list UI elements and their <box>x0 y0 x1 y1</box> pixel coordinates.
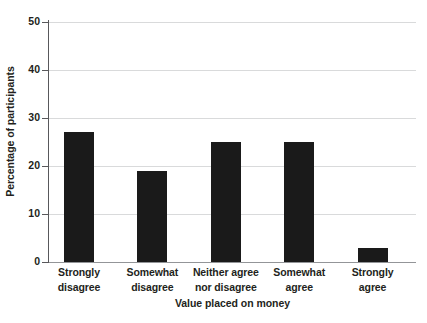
gridline <box>49 118 416 119</box>
y-axis-tick-mark <box>42 214 49 215</box>
bar <box>64 132 94 262</box>
x-axis-tick-label: Stronglyagree <box>330 265 416 295</box>
x-axis-tick-labels: StronglydisagreeSomewhatdisagreeNeither … <box>49 265 416 299</box>
y-axis-tick-mark <box>42 262 49 263</box>
plot-area <box>49 22 416 262</box>
y-axis-tick-label: 30 <box>16 112 40 123</box>
gridline <box>49 70 416 71</box>
y-axis-tick-mark <box>42 70 49 71</box>
y-axis-tick-label: 40 <box>16 64 40 75</box>
y-axis-tick-label: 10 <box>16 208 40 219</box>
y-axis-tick-label: 50 <box>16 16 40 27</box>
x-axis-title: Value placed on money <box>49 297 416 309</box>
bar <box>137 171 167 262</box>
y-axis-tick-mark <box>42 118 49 119</box>
bar-chart: Percentage of participants 01020304050 S… <box>0 0 427 323</box>
bar <box>284 142 314 262</box>
y-axis-line <box>48 20 49 263</box>
bar <box>211 142 241 262</box>
x-axis-tick-label-line: Strongly <box>330 265 416 280</box>
bar <box>358 248 388 262</box>
x-axis-line <box>48 262 416 263</box>
y-axis-tick-mark <box>42 22 49 23</box>
y-axis-tick-label: 20 <box>16 160 40 171</box>
gridline <box>49 22 416 23</box>
y-axis-tick-mark <box>42 166 49 167</box>
x-axis-tick-label-line: agree <box>330 280 416 295</box>
